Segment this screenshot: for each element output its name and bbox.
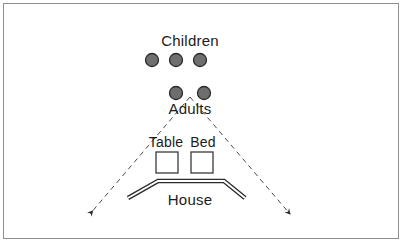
- bed-label: Bed: [177, 135, 229, 149]
- adult-marker: [170, 87, 183, 100]
- adult-marker: [198, 87, 211, 100]
- adults-label: Adults: [0, 101, 380, 116]
- children-markers: [146, 54, 207, 67]
- diagram-canvas: Children Adults Table Bed House: [0, 0, 410, 250]
- table-square: [156, 152, 178, 173]
- bed-square: [191, 152, 213, 173]
- house-label: House: [0, 192, 380, 207]
- object-squares: [156, 152, 213, 173]
- child-marker: [146, 54, 159, 67]
- child-marker: [170, 54, 183, 67]
- child-marker: [194, 54, 207, 67]
- children-label: Children: [0, 33, 380, 48]
